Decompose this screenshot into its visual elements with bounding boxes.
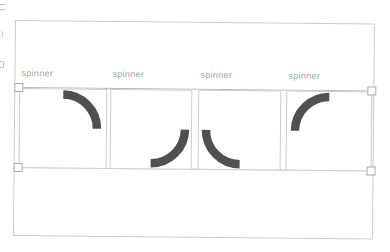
design-canvas[interactable]: spinner spinner spinner spinner xyxy=(13,20,375,239)
selection-handle-bottom-left[interactable] xyxy=(14,163,23,172)
selection-handle-bottom-right[interactable] xyxy=(367,166,376,175)
spinner-arc[interactable] xyxy=(200,91,279,170)
selection-handle-top-right[interactable] xyxy=(367,86,376,95)
page: spinner spinner spinner spinner xyxy=(0,0,390,252)
spinner-arc[interactable] xyxy=(112,90,191,169)
frame-label-spinner-3[interactable]: spinner xyxy=(200,69,232,81)
selection-handle-top-left[interactable] xyxy=(14,83,23,92)
cropped-content-fragment xyxy=(0,4,5,10)
cropped-content-fragment xyxy=(0,31,3,38)
frame-label-spinner-4[interactable]: spinner xyxy=(288,70,320,82)
spinner-frame-3[interactable] xyxy=(198,90,282,171)
spinner-frame-1[interactable] xyxy=(19,88,108,169)
spinner-frame-2[interactable] xyxy=(110,89,193,170)
frame-label-spinner-2[interactable]: spinner xyxy=(112,68,144,80)
spinner-frame-4[interactable] xyxy=(286,91,373,172)
spinner-arc[interactable] xyxy=(24,89,103,168)
cropped-content-fragment xyxy=(0,61,4,68)
spinner-arc[interactable] xyxy=(290,92,369,171)
frame-label-spinner-1[interactable]: spinner xyxy=(21,67,53,79)
